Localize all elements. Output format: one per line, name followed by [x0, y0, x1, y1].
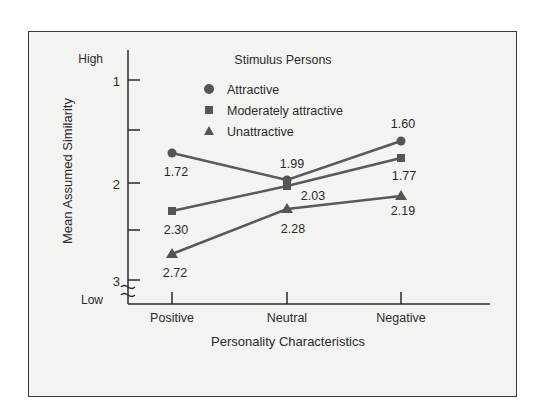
x-axis: Positive Neutral Negative Personality Ch… [128, 292, 490, 349]
y-tick-label: 3 [113, 274, 120, 289]
legend-title: Stimulus Persons [234, 53, 331, 67]
legend-label: Attractive [227, 83, 279, 97]
y-axis: 1 2 3 High Low Mean Assumed Similarity [60, 50, 140, 307]
data-label: 2.03 [301, 189, 325, 203]
x-tick-label: Positive [150, 311, 194, 325]
square-marker-icon [283, 182, 291, 190]
legend: Stimulus Persons Attractive Moderately a… [204, 53, 343, 139]
data-label: 2.72 [163, 266, 187, 280]
square-marker-icon [205, 106, 213, 114]
data-label: 1.72 [164, 165, 188, 179]
data-label: 2.30 [164, 223, 188, 237]
circle-marker-icon [397, 137, 406, 146]
line-chart: 1 2 3 High Low Mean Assumed Similarity P… [0, 0, 541, 413]
y-tick-label: 2 [113, 177, 120, 192]
x-tick-label: Negative [376, 311, 425, 325]
square-marker-icon [168, 207, 176, 215]
triangle-marker-icon [395, 190, 407, 200]
y-axis-high-label: High [78, 52, 103, 66]
data-label: 1.99 [280, 157, 304, 171]
data-label: 2.19 [391, 204, 415, 218]
square-marker-icon [397, 154, 405, 162]
data-label: 1.77 [392, 169, 416, 183]
data-label: 2.28 [281, 222, 305, 236]
circle-marker-icon [204, 84, 214, 94]
y-tick-label: 1 [113, 74, 120, 89]
y-axis-low-label: Low [81, 293, 103, 307]
y-axis-title: Mean Assumed Similarity [60, 98, 75, 244]
legend-label: Unattractive [227, 125, 294, 139]
triangle-marker-icon [204, 126, 214, 135]
data-label: 1.60 [391, 117, 415, 131]
x-axis-title: Personality Characteristics [211, 334, 365, 349]
circle-marker-icon [168, 149, 177, 158]
x-tick-label: Neutral [267, 311, 307, 325]
legend-label: Moderately attractive [227, 104, 343, 118]
